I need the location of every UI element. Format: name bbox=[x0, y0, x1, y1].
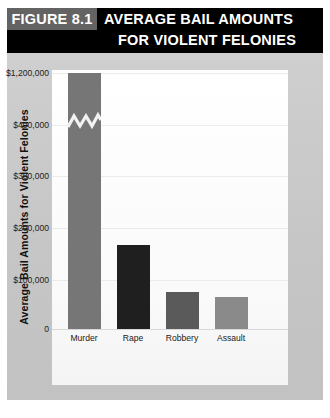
y-axis-tick-label: $1,200,000 bbox=[0, 68, 49, 78]
chart-bar bbox=[215, 297, 248, 329]
y-axis-tick-label: $400,000 bbox=[0, 120, 49, 130]
figure-title-line-1: AVERAGE BAIL AMOUNTS bbox=[104, 9, 320, 30]
x-axis-tick-label: Assault bbox=[207, 333, 256, 343]
y-axis-tick-label: $300,000 bbox=[0, 171, 49, 181]
x-axis-tick-label: Murder bbox=[60, 333, 109, 343]
figure-title: AVERAGE BAIL AMOUNTS FOR VIOLENT FELONIE… bbox=[104, 9, 320, 51]
y-axis-tick-label: $100,000 bbox=[0, 275, 49, 285]
x-axis-tick-label: Robbery bbox=[158, 333, 207, 343]
chart-bar bbox=[117, 245, 150, 329]
y-axis-tick-label: 0 bbox=[0, 324, 49, 334]
chart-bar bbox=[68, 73, 101, 329]
figure-number-badge: FIGURE 8.1 bbox=[7, 8, 97, 30]
chart-axis-baseline bbox=[52, 329, 288, 330]
figure-root: FIGURE 8.1 AVERAGE BAIL AMOUNTS FOR VIOL… bbox=[0, 0, 330, 418]
y-axis-tick-label: $200,000 bbox=[0, 223, 49, 233]
chart-bar bbox=[166, 292, 199, 329]
axis-break-zigzag-icon bbox=[68, 111, 101, 131]
x-axis-tick-label: Rape bbox=[109, 333, 158, 343]
figure-header: FIGURE 8.1 AVERAGE BAIL AMOUNTS FOR VIOL… bbox=[7, 8, 323, 53]
figure-body: Average Bail Amounts for Violent Felonie… bbox=[7, 53, 323, 400]
caption-strip bbox=[0, 408, 330, 418]
figure-number-label: FIGURE 8.1 bbox=[12, 11, 93, 27]
figure-title-line-2: FOR VIOLENT FELONIES bbox=[118, 30, 320, 51]
